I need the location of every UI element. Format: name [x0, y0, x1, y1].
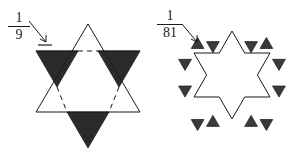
small-triangle-1 [191, 37, 204, 48]
small-triangle-9 [207, 115, 220, 126]
filled-spike-upper-left [36, 51, 78, 87]
fraction-numerator: 1 [157, 9, 183, 23]
left-hexagram-figure [29, 21, 140, 148]
right-hexagram-figure [179, 24, 286, 131]
geometry-canvas [0, 0, 288, 156]
small-triangle-12 [179, 59, 192, 70]
dashed-edge-left [57, 87, 67, 112]
small-triangle-6 [273, 86, 286, 97]
filled-spike-upper-right [98, 51, 140, 87]
small-triangle-8 [245, 115, 258, 126]
hexagram-outline [194, 31, 270, 119]
small-triangle-2 [207, 42, 220, 53]
small-triangle-5 [273, 59, 286, 70]
fraction-label-one-eightyfirst: 1 81 [157, 9, 183, 40]
small-triangle-11 [179, 86, 192, 97]
fraction-label-one-ninth: 1 9 [8, 11, 30, 42]
small-triangle-7 [260, 120, 273, 131]
dashed-edge-right [109, 87, 119, 112]
filled-spike-bottom [67, 112, 109, 148]
small-triangle-3 [245, 42, 258, 53]
small-triangle-4 [260, 37, 273, 48]
fraction-denominator: 9 [8, 28, 30, 42]
fraction-denominator: 81 [157, 26, 183, 40]
fraction-numerator: 1 [8, 11, 30, 25]
figures-container: 1 9 1 81 [0, 0, 288, 156]
small-triangle-10 [191, 120, 204, 131]
label-arrow-shaft-left [29, 21, 46, 42]
label-arrow-shaft-right [182, 24, 197, 42]
